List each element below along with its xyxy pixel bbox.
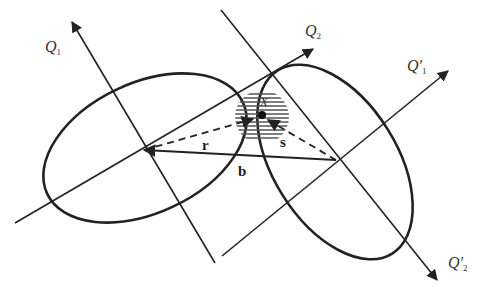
label-x: X [259,94,269,109]
axis-q2-prime [221,10,437,280]
label-q2-prime: Q′2 [448,254,468,273]
vector-r [144,119,253,150]
label-q1-prime: Q′1 [407,57,427,76]
label-q2: Q2 [305,22,321,41]
label-r: r [202,137,209,153]
axis-q1-prime [222,71,448,256]
label-s: s [280,134,286,150]
vector-b [144,150,336,160]
label-q1: Q1 [45,38,61,57]
point-x [258,111,266,119]
axis-q1 [72,22,215,263]
label-b: b [238,163,246,179]
diagram-canvas: Q1 Q2 Q′1 Q′2 X r s b [0,0,487,298]
